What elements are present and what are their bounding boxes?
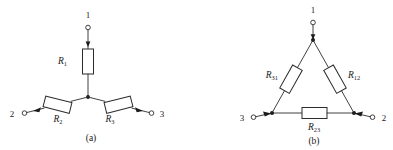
terminal-node-1[interactable] [86,25,91,30]
lead-apex-to-r31 [298,40,314,68]
resistor-label-r2: R2 [52,114,62,125]
resistor-r2-body-group[interactable] [43,96,72,113]
lead-center-to-r2 [71,97,88,101]
resistor-label-r3: R3 [104,114,114,125]
resistor-label-r31-subscript: 31 [272,74,278,81]
resistor-label-r1-subscript: 1 [64,60,67,67]
arrowhead-branch-r3 [135,107,143,112]
circuit-canvas: 1 2 3 R1 R2 R3 (a) [0,0,393,150]
lead-r31-to-node3 [273,91,285,112]
terminal-label-1-b: 1 [311,5,316,15]
lead-r12-to-node2 [342,91,354,112]
resistor-r12-body-group[interactable] [324,65,347,93]
resistor-r31-body-group[interactable] [280,65,303,93]
resistor-r3-body[interactable] [104,96,133,113]
resistor-label-r12-subscript: 12 [354,74,360,81]
terminal-label-1-a: 1 [86,10,91,20]
resistor-label-r3-subscript: 3 [111,118,114,125]
resistor-label-r12: R12 [347,70,360,81]
panel-a-star-network: 1 2 3 R1 R2 R3 (a) [10,10,165,144]
resistor-r2-body[interactable] [43,96,72,113]
terminal-label-3-a: 3 [160,109,165,119]
lead-apex-to-r12 [313,40,329,68]
resistor-r12-body[interactable] [324,65,347,93]
caption-panel-a: (a) [86,133,97,144]
terminal-label-2-b: 2 [382,113,387,123]
resistor-label-r31: R31 [265,70,278,81]
terminal-node-2[interactable] [22,111,27,116]
figure-root: 1 2 3 R1 R2 R3 (a) [0,0,393,150]
resistor-label-r1: R1 [57,56,67,67]
terminal-label-3-b: 3 [240,113,245,123]
resistor-label-r23-subscript: 23 [314,126,320,133]
arrowhead-branch-r2 [33,107,41,112]
resistor-label-r2-subscript: 2 [59,118,62,125]
arrowhead-branch-r1 [86,42,91,48]
resistor-r23-body[interactable] [302,108,327,119]
terminal-node-2-b[interactable] [370,115,375,120]
panel-b-delta-network: 1 2 3 R31 R12 R23 (b) [240,5,387,147]
resistor-r3-body-group[interactable] [104,96,133,113]
resistor-r31-body[interactable] [280,65,303,93]
terminal-node-3[interactable] [149,111,154,116]
caption-panel-b: (b) [308,136,319,147]
terminal-node-1-b[interactable] [311,20,316,25]
lead-center-to-r3 [88,97,105,101]
terminal-label-2-a: 2 [10,109,15,119]
terminal-node-3-b[interactable] [251,115,256,120]
resistor-r1-body[interactable] [83,49,94,74]
resistor-label-r23: R23 [307,122,320,133]
